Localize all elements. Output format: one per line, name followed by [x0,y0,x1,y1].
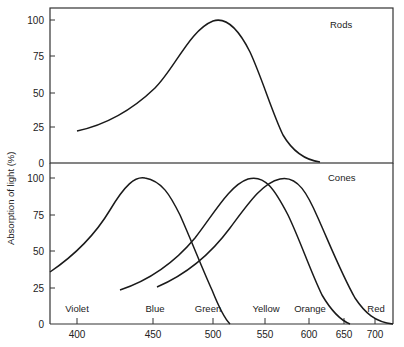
cones-ytick-0: 0 [38,319,44,330]
xtick-600: 600 [301,329,318,340]
xtick-550: 550 [257,329,274,340]
color-labels: Violet Blue Green Yellow Orange Red [65,303,385,314]
color-label-blue: Blue [145,303,164,314]
rods-ytick-100: 100 [27,15,44,26]
x-ticks: 400 450 500 550 600 650 700 [69,318,384,340]
xtick-450: 450 [145,329,162,340]
rods-y-ticks: 100 75 50 25 0 [27,15,55,169]
color-label-red: Red [367,303,384,314]
rods-ytick-25: 25 [33,122,45,133]
cones-ytick-100: 100 [27,173,44,184]
color-label-yellow: Yellow [252,303,279,314]
color-label-green: Green [195,303,221,314]
cones-ytick-25: 25 [33,283,45,294]
cones-y-ticks: 100 75 50 25 0 [27,173,55,330]
cones-ytick-50: 50 [33,246,45,257]
rods-ytick-50: 50 [33,88,45,99]
rods-ytick-0: 0 [38,158,44,169]
color-label-orange: Orange [294,303,326,314]
rods-curve [77,20,320,162]
xtick-400: 400 [69,329,86,340]
color-label-violet: Violet [65,303,89,314]
y-axis-label: Absorption of light (%) [5,152,16,245]
absorption-chart: 100 75 50 25 0 100 75 50 25 0 Absorption… [0,0,404,347]
xtick-650: 650 [336,329,353,340]
cones-ytick-75: 75 [33,210,45,221]
rods-panel-frame [50,8,393,163]
xtick-500: 500 [205,329,222,340]
xtick-700: 700 [367,329,384,340]
rods-ytick-75: 75 [33,51,45,62]
rods-label: Rods [330,19,352,30]
cones-label: Cones [328,172,356,183]
